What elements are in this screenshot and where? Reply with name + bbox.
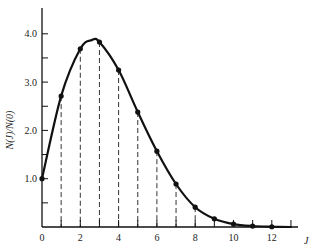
y-tick-label: 4.0 (25, 28, 38, 39)
data-point (97, 39, 102, 44)
x-tick-label: 6 (154, 232, 159, 243)
data-point (173, 181, 178, 186)
x-tick-label: 8 (193, 232, 198, 243)
distribution-curve (42, 39, 291, 227)
data-point (269, 224, 274, 229)
y-tick-label: 1.0 (25, 173, 38, 184)
data-point (39, 176, 44, 181)
x-tick-label: 12 (267, 232, 277, 243)
x-tick-label: 2 (78, 232, 83, 243)
x-tick-label: 4 (116, 232, 121, 243)
data-point (212, 216, 217, 221)
x-tick-label: 10 (229, 232, 239, 243)
data-point (135, 109, 140, 114)
data-point (193, 205, 198, 210)
x-tick-label: 0 (40, 232, 45, 243)
x-axis-title: J (304, 235, 309, 246)
data-point (154, 149, 159, 154)
population-chart: 1.02.03.04.0024681012 J N(J)/N(0) (0, 0, 316, 251)
y-tick-label: 2.0 (25, 125, 38, 136)
dashed-drop-lines (61, 42, 195, 227)
y-axis-title: N(J)/N(0) (4, 110, 16, 151)
data-point (116, 67, 121, 72)
data-point (231, 222, 236, 227)
y-tick-label: 3.0 (25, 77, 38, 88)
data-point (250, 223, 255, 228)
tick-labels: 1.02.03.04.0024681012 (25, 28, 277, 243)
data-point (78, 46, 83, 51)
data-point (59, 94, 64, 99)
